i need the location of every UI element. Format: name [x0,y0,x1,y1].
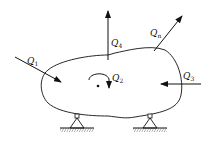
moment-q2: Q2 [89,73,123,88]
svg-text:Q3: Q3 [183,71,194,82]
svg-text:Qn: Qn [150,28,161,39]
left-pin-support [60,114,94,132]
force-q1: Q1 [15,56,61,82]
svg-text:Q4: Q4 [111,38,122,49]
diagram-canvas: Q1 Q4 Qn Q3 Q2 [0,0,213,149]
svg-text:Q2: Q2 [112,73,123,84]
force-qn: Qn [150,16,182,51]
svg-text:Q1: Q1 [27,56,38,67]
